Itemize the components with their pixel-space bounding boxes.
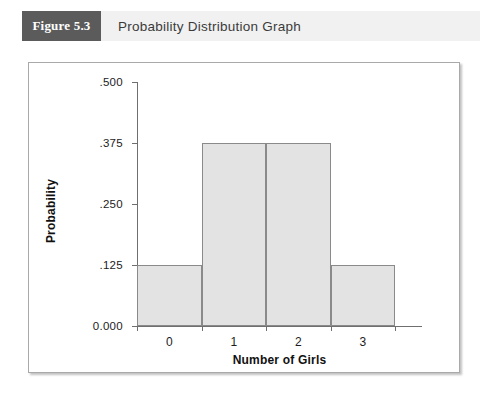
x-tick-label: 3 [359,335,366,349]
x-tick-mark [137,326,138,331]
x-tick-mark [202,326,203,331]
x-tick-label: 0 [166,335,173,349]
y-tick-mark [132,143,137,144]
y-tick-label: .125 [99,259,123,271]
x-axis-title: Number of Girls [137,353,422,367]
x-tick-mark [266,326,267,331]
x-tick-label: 2 [295,335,302,349]
figure-number-badge: Figure 5.3 [22,11,101,41]
y-tick-label: 0.000 [93,320,123,332]
figure-title: Probability Distribution Graph [101,11,301,41]
figure-header: Figure 5.3 Probability Distribution Grap… [22,11,480,41]
x-tick-mark [395,326,396,331]
y-tick-label: .500 [99,76,123,88]
bar-3 [331,265,396,326]
bar-2 [266,143,331,326]
bar-1 [202,143,267,326]
chart-panel: 0.000.125.250.375.500 0123 Probability N… [28,62,460,373]
x-tick-mark [331,326,332,331]
y-tick-mark [132,204,137,205]
plot-area: 0.000.125.250.375.500 0123 Probability N… [29,63,461,374]
y-tick-label: .375 [99,137,123,149]
x-tick-label: 1 [230,335,237,349]
y-tick-mark [132,82,137,83]
bar-0 [137,265,202,326]
y-tick-label: .250 [99,198,123,210]
y-axis-title: Probability [44,141,58,281]
x-axis-line [137,326,422,327]
